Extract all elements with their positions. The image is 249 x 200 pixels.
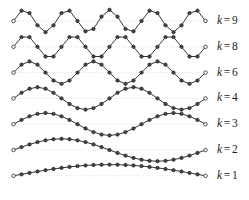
data-point-marker: [108, 163, 111, 166]
data-point-marker: [100, 63, 103, 66]
data-point-marker: [148, 165, 151, 168]
data-point-marker: [124, 87, 127, 90]
data-point-marker: [180, 24, 183, 27]
data-point-marker: [52, 91, 55, 94]
data-point-marker: [124, 163, 127, 166]
data-point-marker: [164, 63, 167, 66]
data-point-marker: [44, 71, 47, 74]
data-point-marker: [100, 102, 103, 105]
sinusoid-basis-figure: k=9k=8k=6k=4k=3k=2k=1: [0, 0, 249, 200]
series-label-k-4: k=4: [217, 93, 238, 105]
series-label-k-1: k=1: [217, 170, 238, 182]
data-point-marker: [188, 115, 191, 118]
data-point-marker: [116, 79, 119, 82]
data-point-marker: [28, 143, 31, 146]
data-point-marker: [28, 87, 31, 90]
data-point-marker: [196, 173, 199, 176]
data-point-marker: [84, 108, 87, 111]
data-point-marker: [60, 82, 63, 85]
data-point-marker: [116, 133, 119, 136]
data-point-marker: [52, 79, 55, 82]
data-point-marker: [188, 11, 191, 14]
data-point-marker: [116, 15, 119, 18]
label-variable: k: [217, 143, 222, 155]
data-point-marker: [36, 24, 39, 27]
data-point-marker: [172, 111, 175, 114]
data-point-marker: [188, 171, 191, 174]
data-point-marker: [180, 156, 183, 159]
data-point-marker: [60, 115, 63, 118]
data-point-marker: [76, 106, 79, 109]
endpoint-marker: [12, 19, 16, 23]
data-point-marker: [84, 63, 87, 66]
data-point-marker: [132, 164, 135, 167]
data-point-marker: [44, 55, 47, 58]
data-point-marker: [76, 164, 79, 167]
series-label-k-3: k=3: [217, 118, 238, 130]
data-point-marker: [20, 91, 23, 94]
data-point-marker: [148, 63, 151, 66]
data-point-marker: [172, 35, 175, 38]
data-point-marker: [52, 24, 55, 27]
data-point-marker: [36, 140, 39, 143]
series-row: [12, 86, 208, 112]
label-variable: k: [217, 40, 222, 52]
data-point-marker: [52, 112, 55, 115]
label-equals: =: [224, 92, 231, 104]
endpoint-marker: [204, 122, 208, 126]
series-label-k-6: k=6: [217, 67, 238, 79]
data-point-marker: [132, 156, 135, 159]
data-point-marker: [140, 71, 143, 74]
data-point-marker: [60, 166, 63, 169]
data-point-marker: [156, 97, 159, 100]
data-point-marker: [172, 71, 175, 74]
data-point-marker: [28, 171, 31, 174]
series-row: [12, 60, 208, 86]
data-point-marker: [60, 137, 63, 140]
data-point-marker: [140, 87, 143, 90]
endpoint-marker: [12, 122, 16, 126]
endpoint-marker: [12, 71, 16, 75]
endpoint-marker: [204, 148, 208, 152]
endpoint-marker: [204, 174, 208, 178]
data-point-marker: [68, 35, 71, 38]
data-point-marker: [108, 71, 111, 74]
data-point-marker: [188, 154, 191, 157]
data-point-marker: [44, 169, 47, 172]
label-value: 3: [232, 117, 238, 129]
data-point-marker: [60, 11, 63, 14]
data-point-marker: [156, 11, 159, 14]
data-point-marker: [84, 140, 87, 143]
label-equals: =: [224, 117, 231, 129]
endpoint-marker: [204, 45, 208, 49]
data-point-marker: [36, 112, 39, 115]
data-point-marker: [140, 123, 143, 126]
data-point-marker: [76, 139, 79, 142]
data-point-marker: [100, 133, 103, 136]
data-point-marker: [20, 173, 23, 176]
data-point-marker: [60, 97, 63, 100]
data-point-marker: [124, 130, 127, 133]
label-variable: k: [217, 66, 222, 78]
data-point-marker: [156, 160, 159, 163]
data-point-marker: [180, 170, 183, 173]
data-point-marker: [20, 118, 23, 121]
data-point-marker: [140, 164, 143, 167]
data-point-marker: [84, 45, 87, 48]
data-point-marker: [92, 55, 95, 58]
data-point-marker: [100, 15, 103, 18]
label-variable: k: [217, 92, 222, 104]
data-point-marker: [92, 27, 95, 30]
data-point-marker: [68, 102, 71, 105]
data-point-marker: [84, 30, 87, 33]
series-layer: [12, 8, 208, 177]
data-point-marker: [36, 86, 39, 89]
data-point-marker: [172, 158, 175, 161]
data-point-marker: [116, 91, 119, 94]
data-point-marker: [28, 115, 31, 118]
data-point-marker: [132, 30, 135, 33]
data-point-marker: [68, 9, 71, 12]
series-row: [12, 8, 208, 34]
endpoint-marker: [12, 174, 16, 178]
data-point-marker: [156, 166, 159, 169]
